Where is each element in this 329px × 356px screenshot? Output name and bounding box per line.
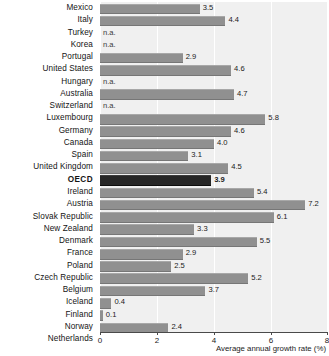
bar-row: 3.9 (100, 174, 328, 186)
category-label: New Zealand (0, 223, 98, 235)
category-label: Belgium (0, 284, 98, 296)
category-axis: MexicoItalyTurkeyKoreaPortugalUnited Sta… (0, 2, 98, 345)
bar-value-label: 0.1 (106, 310, 117, 320)
bar-value-label: 3.1 (191, 150, 202, 160)
category-label: Poland (0, 260, 98, 272)
bar (100, 298, 111, 309)
bar-row: 3.5 (100, 2, 328, 14)
bar-value-label: 6.1 (277, 212, 288, 222)
bar-row: 3.3 (100, 223, 328, 235)
bar (100, 65, 231, 76)
category-label: Austria (0, 198, 98, 210)
category-label: OECD (0, 174, 98, 186)
bar-value-label: 7.2 (308, 199, 319, 209)
bar-row: 4.6 (100, 125, 328, 137)
bar-row: 2.4 (100, 321, 328, 332)
bar (100, 261, 171, 272)
category-label: Luxembourg (0, 112, 98, 124)
bar (100, 237, 257, 248)
bar (100, 4, 200, 15)
bar (100, 89, 234, 100)
category-label: United States (0, 63, 98, 75)
bar-row: 0.1 (100, 309, 328, 321)
category-label: Norway (0, 321, 98, 333)
category-label: Canada (0, 137, 98, 149)
bar (100, 175, 211, 186)
bar (100, 163, 228, 174)
bar (100, 188, 254, 199)
bar-value-label: 2.9 (186, 52, 197, 62)
bar-value-label: 5.2 (251, 273, 262, 283)
category-label: Iceland (0, 296, 98, 308)
bar-row: 3.7 (100, 284, 328, 296)
axis-tick-label: 2 (155, 336, 159, 346)
bar-row: n.a. (100, 27, 328, 39)
bar (100, 200, 305, 211)
axis-tick-mark (214, 332, 215, 335)
bar-row: 4.0 (100, 137, 328, 149)
bar-value-label: 4.4 (228, 15, 239, 25)
plot-area: 3.54.4n.a.n.a.2.94.6n.a.4.7n.a.5.84.64.0… (100, 2, 328, 332)
bar-row: 4.6 (100, 63, 328, 75)
bar (100, 16, 225, 27)
bar-row: 4.4 (100, 14, 328, 26)
bar-row: 0.4 (100, 296, 328, 308)
bar-value-label: 3.5 (203, 3, 214, 13)
bar-row: 5.4 (100, 186, 328, 198)
axis-tick-mark (157, 332, 158, 335)
category-label: Finland (0, 309, 98, 321)
category-label: Italy (0, 14, 98, 26)
bar (100, 114, 265, 125)
axis-tick-mark (271, 332, 272, 335)
bar-row: n.a. (100, 76, 328, 88)
bar-row: 2.9 (100, 51, 328, 63)
category-label: Australia (0, 88, 98, 100)
category-label: Ireland (0, 186, 98, 198)
bar-row: 2.9 (100, 247, 328, 259)
bar-row: 7.2 (100, 198, 328, 210)
x-axis-title: Average annual growth rate (%) (216, 344, 326, 354)
bar-row: 3.1 (100, 149, 328, 161)
bar-row: 2.5 (100, 260, 328, 272)
bar (100, 126, 231, 137)
bar-value-label: 4.6 (234, 126, 245, 136)
category-label: Switzerland (0, 100, 98, 112)
category-label: Denmark (0, 235, 98, 247)
category-label: Korea (0, 39, 98, 51)
bar-value-label: 4.7 (237, 89, 248, 99)
bar-row: 4.7 (100, 88, 328, 100)
category-label: Slovak Republic (0, 211, 98, 223)
category-label: United Kingdom (0, 161, 98, 173)
bar-value-label: 5.4 (257, 187, 268, 197)
na-label: n.a. (103, 28, 116, 38)
bar-series: 3.54.4n.a.n.a.2.94.6n.a.4.7n.a.5.84.64.0… (100, 2, 328, 332)
bar (100, 212, 274, 223)
bar (100, 53, 183, 64)
bar (100, 249, 183, 260)
bar (100, 323, 168, 333)
axis-tick-mark (100, 332, 101, 335)
bar-row: n.a. (100, 39, 328, 51)
category-label: Mexico (0, 2, 98, 14)
axis-tick-label: 0 (98, 336, 102, 346)
na-label: n.a. (103, 77, 116, 87)
bar-row: 4.5 (100, 161, 328, 173)
bar-value-label: 3.3 (197, 224, 208, 234)
bar (100, 310, 103, 321)
category-label: Spain (0, 149, 98, 161)
category-label: Hungary (0, 76, 98, 88)
category-label: Turkey (0, 27, 98, 39)
bar-row: 5.8 (100, 112, 328, 124)
bar-value-label: 4.0 (217, 138, 228, 148)
na-label: n.a. (103, 101, 116, 111)
bar-value-label: 5.5 (260, 236, 271, 246)
bar (100, 224, 194, 235)
na-label: n.a. (103, 40, 116, 50)
bar-value-label: 4.5 (231, 162, 242, 172)
bar-row: n.a. (100, 100, 328, 112)
bar-value-label: 3.9 (214, 175, 225, 185)
bar-value-label: 3.7 (208, 285, 219, 295)
bar-value-label: 2.9 (186, 248, 197, 258)
bar-value-label: 2.4 (171, 322, 182, 332)
